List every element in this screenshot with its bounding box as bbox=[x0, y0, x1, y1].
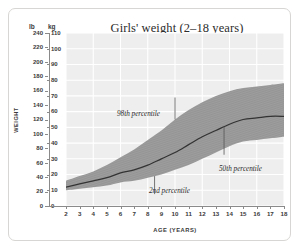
y-tick-label-kg: 20 bbox=[51, 171, 67, 177]
y-tick-mark-lb bbox=[45, 105, 48, 106]
y-tick-label-lb: 60 bbox=[27, 160, 43, 166]
x-tick-mark bbox=[284, 206, 285, 209]
annotation-50th-percentile: 50th percentile bbox=[219, 165, 262, 173]
y-tick-label-lb: 180 bbox=[27, 73, 43, 79]
x-tick-label: 4 bbox=[86, 210, 100, 217]
y-tick-mark-lb bbox=[45, 120, 48, 121]
annotation-2nd-percentile: 2nd percentile bbox=[149, 187, 190, 195]
y-tick-mark-lb bbox=[45, 134, 48, 135]
x-axis-title: AGE (YEARS) bbox=[65, 227, 285, 233]
y-axis-line bbox=[49, 33, 50, 207]
y-tick-label-lb: 0 bbox=[27, 203, 43, 209]
x-axis-line bbox=[49, 206, 284, 207]
y-tick-label-lb: 160 bbox=[27, 87, 43, 93]
x-tick-label: 7 bbox=[127, 210, 141, 217]
y-tick-mark-lb bbox=[45, 76, 48, 77]
x-tick-label: 18 bbox=[277, 210, 291, 217]
x-tick-label: 14 bbox=[223, 210, 237, 217]
y-tick-label-kg: 50 bbox=[51, 124, 67, 130]
x-tick-label: 17 bbox=[263, 210, 277, 217]
y-tick-label-lb: 140 bbox=[27, 102, 43, 108]
y-tick-label-kg: 30 bbox=[51, 156, 67, 162]
chart-frame: Girls' weight (2–18 years) lb kg WEIGHT … bbox=[8, 8, 291, 241]
y-tick-label-kg: 10 bbox=[51, 187, 67, 193]
y-tick-label-lb: 120 bbox=[27, 116, 43, 122]
x-tick-label: 15 bbox=[236, 210, 250, 217]
y-tick-label-lb: 240 bbox=[27, 30, 43, 36]
x-tick-label: 10 bbox=[168, 210, 182, 217]
y-tick-label-kg: 100 bbox=[51, 46, 67, 52]
y-tick-label-kg: 60 bbox=[51, 108, 67, 114]
y-tick-mark-lb bbox=[45, 192, 48, 193]
y-tick-label-lb: 100 bbox=[27, 131, 43, 137]
x-tick-label: 12 bbox=[195, 210, 209, 217]
y-tick-mark-lb bbox=[45, 91, 48, 92]
y-tick-label-lb: 80 bbox=[27, 145, 43, 151]
y-tick-mark-lb bbox=[45, 163, 48, 164]
y-tick-label-kg: 40 bbox=[51, 140, 67, 146]
y-tick-label-kg: 80 bbox=[51, 77, 67, 83]
x-tick-label: 3 bbox=[73, 210, 87, 217]
y-tick-label-lb: 200 bbox=[27, 59, 43, 65]
y-tick-mark-lb bbox=[45, 177, 48, 178]
y-tick-label-lb: 40 bbox=[27, 174, 43, 180]
x-tick-label: 16 bbox=[250, 210, 264, 217]
x-tick-label: 13 bbox=[209, 210, 223, 217]
annotation-98th-percentile: 98th percentile bbox=[117, 110, 160, 118]
y-tick-mark-lb bbox=[45, 148, 48, 149]
x-tick-label: 11 bbox=[182, 210, 196, 217]
y-tick-mark-lb bbox=[45, 62, 48, 63]
x-tick-label: 5 bbox=[100, 210, 114, 217]
y-tick-label-lb: 20 bbox=[27, 188, 43, 194]
y-tick-label-kg: 110 bbox=[51, 30, 67, 36]
x-tick-label: 9 bbox=[154, 210, 168, 217]
chart-canvas bbox=[66, 33, 284, 206]
y-tick-label-lb: 220 bbox=[27, 44, 43, 50]
x-tick-label: 6 bbox=[114, 210, 128, 217]
plot-area bbox=[66, 33, 284, 206]
y-axis-title: WEIGHT bbox=[13, 90, 19, 150]
x-tick-label: 8 bbox=[141, 210, 155, 217]
y-tick-label-kg: 90 bbox=[51, 61, 67, 67]
y-tick-label-kg: 70 bbox=[51, 93, 67, 99]
x-tick-label: 2 bbox=[59, 210, 73, 217]
